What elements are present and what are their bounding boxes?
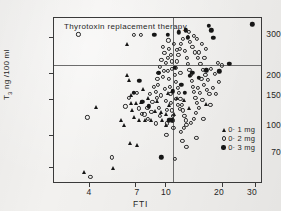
data-point: [135, 90, 139, 94]
data-point: [111, 166, 115, 170]
x-tick-label-10: 10: [161, 187, 171, 197]
data-point: [217, 69, 221, 73]
data-point: [159, 155, 163, 159]
legend: 0· 1 mg0· 2 mg0· 3 mg: [219, 125, 255, 152]
data-point: [202, 56, 206, 60]
data-point: [88, 174, 92, 178]
legend-item-label: 0· 1 mg: [228, 125, 255, 134]
data-point: [149, 110, 153, 114]
data-point: [212, 72, 216, 76]
data-point: [184, 145, 188, 149]
data-point: [153, 109, 157, 113]
data-point: [85, 115, 89, 119]
legend-item: 0· 3 mg: [219, 143, 255, 152]
data-point: [189, 121, 193, 125]
data-point: [190, 45, 194, 49]
filled-circle-icon: [219, 145, 228, 149]
data-point: [183, 49, 187, 53]
y-axis-tick: [49, 135, 54, 136]
legend-item-label: 0· 3 mg: [228, 143, 255, 152]
data-point: [130, 108, 134, 112]
data-point: [190, 78, 194, 82]
data-point: [188, 40, 192, 44]
data-point: [214, 92, 218, 96]
data-point: [167, 85, 171, 89]
data-point: [159, 58, 163, 62]
data-point: [191, 85, 195, 89]
data-point: [171, 126, 175, 130]
data-point: [202, 82, 206, 86]
data-point: [180, 139, 184, 143]
x-axis-tick: [222, 182, 223, 187]
filled-triangle-icon: [219, 128, 228, 132]
data-point: [207, 92, 211, 96]
data-point: [170, 89, 174, 93]
data-point: [195, 100, 199, 104]
y-axis-tick: [49, 99, 54, 100]
data-point: [211, 36, 215, 40]
legend-item: 0· 2 mg: [219, 134, 255, 143]
data-point: [76, 32, 80, 36]
data-point: [197, 50, 201, 54]
plot-frame: Thyrotoxin replacement therapy 0· 1 mg0·…: [53, 17, 262, 183]
data-point: [159, 93, 163, 97]
data-point: [179, 130, 183, 134]
data-point: [204, 47, 208, 51]
data-point: [160, 118, 164, 122]
x-tick-label-4: 4: [87, 187, 92, 197]
data-point: [208, 103, 212, 107]
data-point: [132, 115, 136, 119]
data-point: [220, 63, 224, 67]
data-point: [148, 92, 152, 96]
x-axis-tick: [165, 182, 166, 187]
data-point: [119, 118, 123, 122]
data-point: [149, 118, 153, 122]
data-point: [187, 106, 191, 110]
x-axis-tick: [135, 182, 136, 187]
data-point: [129, 101, 133, 105]
y-axis-title: T3 ng /100 ml: [2, 50, 13, 100]
x-tick-label-20: 20: [214, 187, 224, 197]
data-point: [156, 82, 160, 86]
data-point: [135, 143, 139, 147]
data-point: [131, 91, 135, 95]
data-point: [206, 78, 210, 82]
data-point: [182, 98, 186, 102]
data-point: [193, 96, 197, 100]
data-point: [137, 118, 141, 122]
data-point: [200, 42, 204, 46]
data-point: [166, 33, 170, 37]
data-point: [128, 141, 132, 145]
data-point: [173, 157, 177, 161]
figure-container: T3 ng /100 ml 300 200 150 100 70 4 7 10 …: [0, 0, 281, 211]
data-point: [150, 100, 154, 104]
data-point: [195, 37, 199, 41]
data-point: [157, 106, 161, 110]
data-point: [141, 87, 145, 91]
data-point: [172, 42, 176, 46]
y-axis-title-subscript: 3: [7, 91, 13, 95]
data-point: [161, 75, 165, 79]
data-point: [125, 73, 129, 77]
x-axis-tick: [89, 182, 90, 187]
data-point: [137, 79, 141, 83]
data-point: [167, 77, 171, 81]
data-point: [203, 73, 207, 77]
data-point: [138, 33, 142, 37]
data-point: [176, 53, 180, 57]
y-axis-tick: [49, 37, 54, 38]
data-point: [146, 96, 150, 100]
data-point: [175, 59, 179, 63]
data-point: [137, 106, 141, 110]
data-point: [179, 42, 183, 46]
data-point: [155, 77, 159, 81]
data-point: [132, 33, 136, 37]
data-point: [188, 74, 192, 78]
data-point: [154, 90, 158, 94]
plot-area: [54, 18, 261, 182]
data-point: [209, 28, 213, 32]
data-point: [201, 117, 205, 121]
data-point: [181, 37, 185, 41]
data-point: [127, 96, 131, 100]
data-point: [125, 42, 129, 46]
